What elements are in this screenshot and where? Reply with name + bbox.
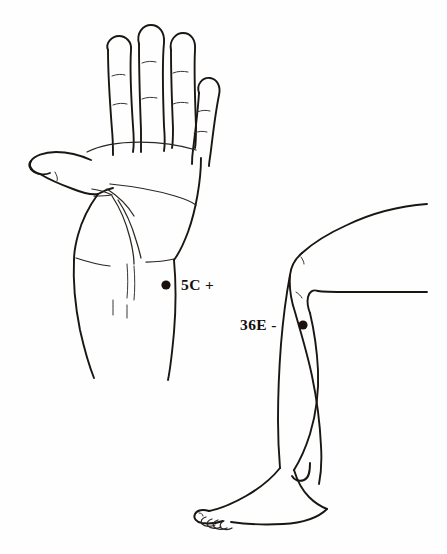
hand-drawing <box>29 25 219 380</box>
shin-front-contour <box>278 275 290 468</box>
index-crease-lower <box>113 103 127 105</box>
toenail-mark <box>199 513 203 516</box>
ring-crease-upper <box>173 71 188 73</box>
point-label-5c: 5C + <box>181 277 214 293</box>
thumb-lower-edge <box>40 174 98 194</box>
knee-detail-upper <box>301 257 304 264</box>
palm-radial-border <box>74 194 98 260</box>
index-crease-upper <box>112 74 125 76</box>
forearm-radial-border <box>74 260 94 378</box>
thumb-outer-outline <box>30 152 91 174</box>
little-crease-upper <box>197 110 210 112</box>
thumb-knuckle-crease <box>55 172 57 181</box>
index-finger-inner-edge <box>108 50 113 155</box>
point-label-36e: 36E - <box>240 317 277 333</box>
palm-life-line <box>112 196 134 264</box>
knee-front-contour <box>290 253 322 484</box>
heel-contour <box>294 470 327 509</box>
ring-finger-outline <box>171 33 196 148</box>
knee-detail-lower <box>296 292 302 298</box>
little-finger-outline <box>198 78 219 166</box>
ring-finger-inner-edge <box>171 50 173 148</box>
anatomy-line-drawing <box>0 0 447 554</box>
forearm-tendon-a <box>127 264 128 298</box>
thigh-upper-contour <box>302 204 427 253</box>
point-marker-5c[interactable] <box>161 280 170 289</box>
middle-crease-lower <box>142 97 157 99</box>
forearm-ulnar-border <box>168 260 176 380</box>
knee-back-notch <box>308 290 318 313</box>
foot-instep-contour <box>209 468 280 511</box>
index-finger-outline <box>107 36 133 152</box>
leg-drawing <box>194 204 427 530</box>
thigh-lower-contour <box>318 291 427 292</box>
forearm-tendon-b <box>134 266 135 300</box>
middle-crease-upper <box>142 61 156 63</box>
ring-crease-lower <box>173 102 188 104</box>
middle-finger-inner-edge <box>139 44 141 152</box>
wrist-crease-right <box>146 259 174 262</box>
point-marker-36e[interactable] <box>298 320 307 329</box>
figure-canvas: 5C + 36E - <box>0 0 447 554</box>
wrist-crease-left <box>76 258 110 266</box>
middle-finger-outline <box>138 25 164 151</box>
palm-ulnar-border <box>174 158 201 260</box>
foot-sole-contour <box>231 509 327 524</box>
thumb-tip <box>29 161 50 174</box>
